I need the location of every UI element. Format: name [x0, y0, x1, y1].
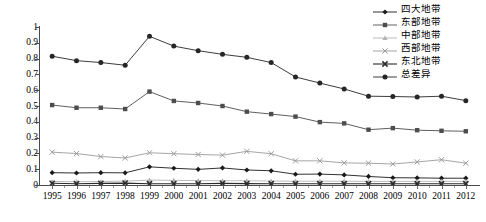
x-tick-minor-mark	[356, 186, 357, 188]
x-tick-label: 2012	[456, 191, 475, 202]
x-tick-label: 2000	[164, 191, 183, 202]
x-tick-label: 2002	[213, 191, 232, 202]
x-tick-mark	[52, 186, 53, 189]
x-tick-minor-mark	[137, 186, 138, 188]
x-tick-minor-mark	[429, 186, 430, 188]
legend-marker-icon	[372, 43, 398, 55]
x-tick-mark	[442, 186, 443, 189]
x-tick-minor-mark	[162, 186, 163, 188]
legend-label: 东北地带	[398, 56, 441, 67]
y-tick-mark	[35, 122, 39, 123]
x-tick-mark	[393, 186, 394, 189]
x-tick-mark	[125, 186, 126, 189]
x-tick-minor-mark	[259, 186, 260, 188]
legend-item-3[interactable]: 中部地带	[372, 29, 484, 42]
x-tick-mark	[369, 186, 370, 189]
x-axis-labels: 1995199619971998199920002001200220032004…	[0, 191, 486, 207]
y-tick-mark	[35, 153, 39, 154]
x-tick-mark	[271, 186, 272, 189]
series-4	[50, 149, 469, 167]
legend-label: 中部地带	[398, 30, 441, 41]
legend-marker-icon	[372, 30, 398, 42]
x-tick-label: 2001	[189, 191, 208, 202]
x-tick-minor-mark	[308, 186, 309, 188]
legend-marker-icon	[372, 4, 398, 16]
x-tick-mark	[466, 186, 467, 189]
y-tick-mark	[35, 27, 39, 28]
x-tick-minor-mark	[405, 186, 406, 188]
x-tick-label: 2003	[237, 191, 256, 202]
x-tick-label: 2011	[432, 191, 451, 202]
x-tick-mark	[320, 186, 321, 189]
legend-item-5[interactable]: 东北地带	[372, 55, 484, 68]
x-tick-minor-mark	[381, 186, 382, 188]
x-tick-minor-mark	[186, 186, 187, 188]
legend-marker-icon	[372, 69, 398, 81]
x-tick-label: 2010	[408, 191, 427, 202]
x-tick-label: 1998	[116, 191, 135, 202]
y-tick-mark	[35, 106, 39, 107]
x-tick-label: 2004	[262, 191, 281, 202]
x-tick-label: 2005	[286, 191, 305, 202]
legend-label: 东部地带	[398, 17, 441, 28]
x-tick-mark	[174, 186, 175, 189]
x-tick-minor-mark	[210, 186, 211, 188]
y-tick-mark	[35, 169, 39, 170]
x-tick-mark	[247, 186, 248, 189]
x-tick-mark	[77, 186, 78, 189]
x-tick-mark	[198, 186, 199, 189]
x-tick-minor-mark	[89, 186, 90, 188]
y-tick-mark	[35, 185, 39, 186]
x-tick-minor-mark	[64, 186, 65, 188]
legend-item-2[interactable]: 东部地带	[372, 16, 484, 29]
series-2	[50, 89, 468, 133]
x-tick-minor-mark	[454, 186, 455, 188]
x-tick-minor-mark	[283, 186, 284, 188]
legend-marker-icon	[372, 56, 398, 68]
x-tick-mark	[417, 186, 418, 189]
x-tick-minor-mark	[332, 186, 333, 188]
x-tick-minor-mark	[113, 186, 114, 188]
x-tick-minor-mark	[235, 186, 236, 188]
y-tick-mark	[35, 138, 39, 139]
y-tick-mark	[35, 74, 39, 75]
line-chart: 10.90.80.70.60.50.40.30.20.10 1995199619…	[0, 0, 486, 222]
x-tick-label: 2008	[359, 191, 378, 202]
x-tick-mark	[101, 186, 102, 189]
x-tick-label: 1999	[140, 191, 159, 202]
y-tick-mark	[35, 59, 39, 60]
series-1	[50, 164, 469, 181]
legend-item-1[interactable]: 四大地带	[372, 3, 484, 16]
y-tick-mark	[35, 43, 39, 44]
x-tick-label: 1995	[43, 191, 62, 202]
legend-label: 西部地带	[398, 43, 441, 54]
x-tick-mark	[150, 186, 151, 189]
legend-item-4[interactable]: 西部地带	[372, 42, 484, 55]
legend-marker-icon	[372, 17, 398, 29]
y-tick-mark	[35, 90, 39, 91]
x-tick-mark	[296, 186, 297, 189]
legend-label: 四大地带	[398, 4, 441, 15]
x-tick-mark	[223, 186, 224, 189]
x-tick-label: 2007	[335, 191, 354, 202]
x-tick-label: 2009	[383, 191, 402, 202]
x-tick-label: 1996	[67, 191, 86, 202]
x-tick-label: 2006	[310, 191, 329, 202]
x-tick-label: 1997	[91, 191, 110, 202]
x-tick-mark	[344, 186, 345, 189]
legend-item-6[interactable]: 总差异	[372, 68, 484, 81]
legend-label: 总差异	[398, 69, 431, 80]
chart-legend: 四大地带东部地带中部地带西部地带东北地带总差异	[372, 3, 484, 81]
